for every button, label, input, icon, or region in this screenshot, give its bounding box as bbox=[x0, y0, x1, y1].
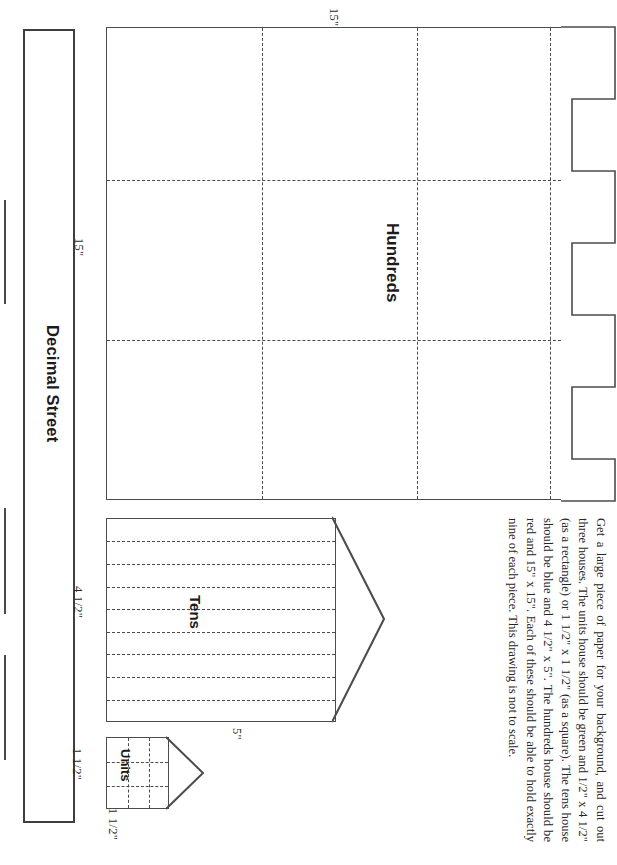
hundreds-grid-hline-1 bbox=[107, 180, 571, 181]
dimension-units-left-text: 1 1/2" bbox=[69, 748, 84, 780]
tens-grid-hline-3 bbox=[107, 587, 335, 588]
tens-house-label-text: Tens bbox=[187, 595, 204, 629]
units-house-label-text: Units bbox=[118, 749, 133, 782]
hundreds-house-label: Hundreds bbox=[402, 223, 481, 243]
units-house-roof bbox=[166, 735, 206, 812]
dimension-tens-left-text: 4 1/2" bbox=[70, 586, 85, 618]
tens-house-roof bbox=[332, 515, 386, 725]
hundreds-house-label-text: Hundreds bbox=[382, 223, 402, 302]
tens-house-body bbox=[106, 518, 336, 722]
tens-grid-hline-8 bbox=[107, 700, 335, 701]
units-house-label: Units bbox=[133, 749, 166, 764]
hundreds-house-roof bbox=[561, 25, 617, 503]
decimal-street-title-text: Decimal Street bbox=[43, 325, 62, 442]
street-dash-3 bbox=[4, 655, 6, 760]
hundreds-house-body bbox=[106, 27, 572, 500]
tens-grid-hline-5 bbox=[107, 632, 335, 633]
tens-grid-hline-6 bbox=[107, 654, 335, 655]
tens-grid-hline-7 bbox=[107, 677, 335, 678]
dimension-hundreds-top-text: 15" bbox=[326, 8, 341, 27]
worksheet-page: Decimal Street 15" 15" Hundreds 4 1/2" 5… bbox=[0, 0, 617, 865]
tens-house-label: Tens bbox=[204, 595, 238, 612]
hundreds-grid-vline-1 bbox=[262, 28, 263, 499]
hundreds-grid-hline-2 bbox=[107, 340, 571, 341]
units-house: Units bbox=[106, 737, 221, 809]
hundreds-grid-vline-3 bbox=[550, 28, 551, 499]
units-grid-hline-2 bbox=[107, 786, 168, 787]
dimension-units-bottom-text: 1 1/2" bbox=[105, 808, 120, 840]
instructions-text: Get a large piece of paper for your back… bbox=[503, 518, 609, 842]
dimension-units-bottom: 1 1/2" bbox=[120, 808, 152, 823]
dimension-hundreds-left-text: 15" bbox=[71, 238, 86, 257]
street-dash-2 bbox=[4, 508, 6, 614]
street-dash-1 bbox=[4, 200, 6, 304]
instructions-block: Get a large piece of paper for your back… bbox=[399, 518, 609, 842]
dimension-hundreds-left: 15" bbox=[86, 238, 105, 253]
tens-house: Tens bbox=[106, 518, 386, 722]
hundreds-grid-vline-2 bbox=[417, 28, 418, 499]
dimension-tens-bottom: 5" bbox=[244, 728, 256, 743]
tens-grid-hline-2 bbox=[107, 564, 335, 565]
units-house-body bbox=[106, 737, 169, 809]
dimension-tens-bottom-text: 5" bbox=[229, 728, 244, 740]
tens-grid-hline-1 bbox=[107, 541, 335, 542]
dimension-hundreds-top: 15" bbox=[341, 8, 360, 23]
hundreds-house: Hundreds bbox=[106, 27, 617, 500]
